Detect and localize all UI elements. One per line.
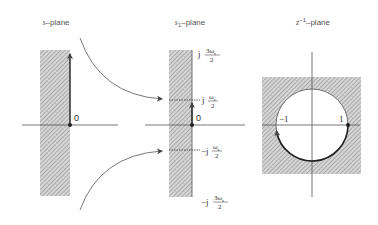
svg-text:ωs: ωs [209,93,216,102]
origin-dot [190,123,194,127]
origin-label: 0 [74,113,79,123]
svg-text:−j: −j [201,197,209,207]
mapping-diagram: s–plane 0 s1–plane 0 j 3ωs 2 j ωs 2 [0,0,378,225]
one-label: 1 [339,114,344,124]
left-half-plane-shading [40,50,70,196]
s-plane-panel: s–plane 0 [22,18,118,196]
svg-text:2: 2 [210,56,214,64]
svg-text:2: 2 [211,102,215,110]
z-inverse-plane-title: z−1–plane [295,17,331,27]
tick-label-neg-j-3ws-over-2: −j 3ωs 2 [201,194,228,211]
s-plane-title: s–plane [42,18,70,27]
svg-text:2: 2 [215,152,219,160]
origin-label: 0 [196,113,201,123]
svg-text:3ωs: 3ωs [214,194,224,203]
svg-text:−j: −j [201,146,209,156]
tick-label-j-3ws-over-2: j 3ωs 2 [197,47,220,64]
neg-one-label: −1 [279,114,289,124]
svg-text:2: 2 [218,203,222,211]
svg-text:3ωs: 3ωs [206,47,216,56]
z-inverse-plane-panel: z−1–plane −1 1 [262,17,361,197]
mapping-arrow-lower [80,151,162,210]
s1-plane-title: s1–plane [175,18,206,28]
point-one-dot [346,123,350,127]
s1-plane-panel: s1–plane 0 j 3ωs 2 j ωs 2 −j ωs 2 −j [145,18,245,211]
svg-text:j: j [201,95,205,105]
origin-dot [68,123,72,127]
tick-label-neg-j-ws-over-2: −j ωs 2 [201,143,222,160]
strip-shading [169,50,192,197]
svg-text:ωs: ωs [213,143,220,152]
tick-label-j-ws-over-2: j ωs 2 [201,93,218,110]
mapping-arrow-upper [80,38,162,99]
svg-text:j: j [197,49,201,59]
